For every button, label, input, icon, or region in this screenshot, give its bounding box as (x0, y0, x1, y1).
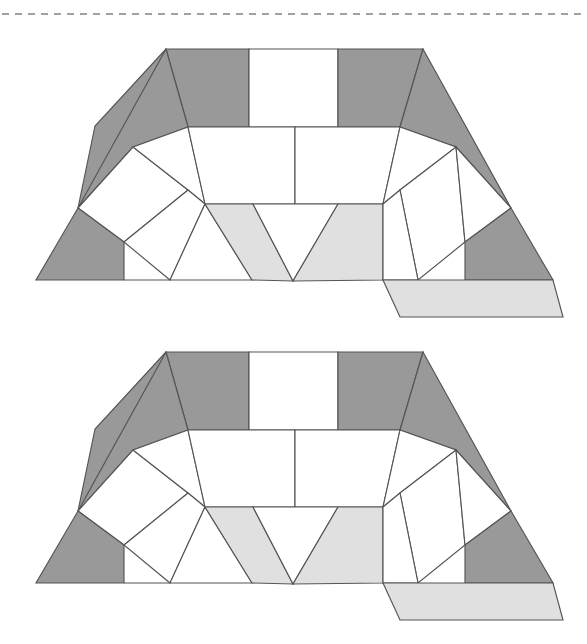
tile-top-center-white-rect (249, 352, 338, 430)
arch-figure-top (36, 49, 563, 317)
arch-figure-bottom (36, 352, 563, 620)
tile-bottom-right-light-gray-flap (383, 280, 563, 317)
tile-top-center-white-rect (249, 49, 338, 127)
tile-center-left-white-quad (188, 430, 295, 507)
tile-center-left-white-quad (188, 127, 295, 204)
tile-bottom-right-light-gray-flap (383, 583, 563, 620)
geometric-figure-canvas (0, 0, 587, 644)
page-root (0, 0, 587, 644)
tile-center-right-white-quad (295, 430, 400, 507)
tile-center-right-white-quad (295, 127, 400, 204)
